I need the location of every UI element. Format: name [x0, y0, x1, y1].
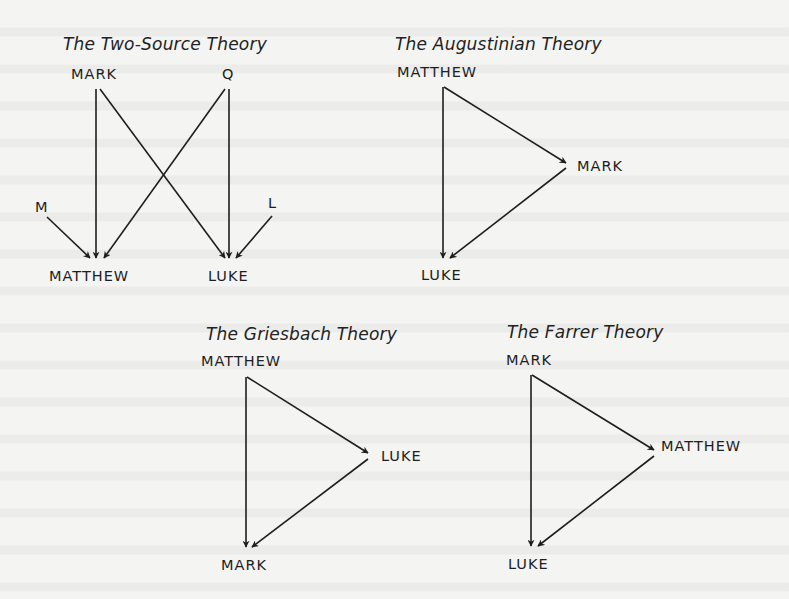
edge-matthew-luke — [247, 377, 368, 453]
node-luke: LUKE — [381, 448, 422, 464]
node-q: Q — [222, 66, 234, 82]
two-source-theory-title: The Two-Source Theory — [63, 34, 267, 54]
edge-matthew-luke — [538, 456, 654, 546]
edge-m-matthew — [47, 217, 90, 258]
edge-matthew-mark — [444, 87, 566, 163]
edge-mark-luke — [450, 168, 566, 258]
edge-l-luke — [236, 216, 272, 258]
griesbach-theory-title: The Griesbach Theory — [206, 324, 397, 344]
node-luke: LUKE — [421, 267, 462, 283]
arrows-layer — [0, 0, 789, 599]
node-mark: MARK — [71, 66, 117, 82]
node-mark: MARK — [221, 557, 267, 573]
node-matthew: MATTHEW — [201, 353, 281, 369]
node-m: M — [35, 199, 49, 215]
node-matthew: MATTHEW — [661, 438, 741, 454]
augustinian-theory-title: The Augustinian Theory — [395, 34, 602, 54]
node-l: L — [268, 195, 277, 211]
farrer-theory-title: The Farrer Theory — [507, 322, 664, 342]
node-mark: MARK — [577, 158, 623, 174]
node-luke: LUKE — [508, 556, 549, 572]
edge-mark-matthew — [532, 375, 654, 450]
node-luke: LUKE — [208, 268, 249, 284]
node-mark: MARK — [506, 352, 552, 368]
node-matthew: MATTHEW — [397, 64, 477, 80]
node-matthew: MATTHEW — [49, 268, 129, 284]
edge-luke-mark — [252, 459, 368, 547]
